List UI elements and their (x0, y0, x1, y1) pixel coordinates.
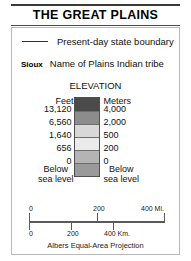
legend-entry-state-boundary: Present-day state boundary (12, 36, 179, 47)
state-boundary-line-icon (22, 41, 48, 42)
elevation-band-500-2000-m (75, 124, 99, 137)
elevation-feet-1640: 1,640 (49, 130, 72, 140)
tribe-example-label: Sioux (21, 60, 43, 69)
scale-tick-km-200 (71, 221, 72, 230)
elevation-scale: Feet Meters 13,1204,0006,5602,0001,64050… (12, 96, 179, 196)
state-boundary-label: Present-day state boundary (57, 36, 174, 47)
legend-entry-tribe-name: Sioux Name of Plains Indian tribe (12, 58, 179, 69)
elevation-band-200-500-m (75, 137, 99, 150)
elevation-band-above-4000-m (75, 98, 99, 111)
elevation-band-2000-4000-m (75, 111, 99, 124)
elevation-feet-656: 656 (56, 143, 71, 153)
elevation-meters-4000: 4,000 (104, 104, 127, 114)
elevation-band-below-sea-level (75, 163, 99, 176)
scale-tick-km-400 (113, 221, 114, 230)
title-rule-bottom (11, 25, 180, 26)
elevation-meters-2000: 2,000 (104, 117, 127, 127)
elevation-color-bar (74, 97, 100, 177)
elevation-below-sea-level-meters: Belowsea level (104, 164, 140, 184)
scale-label-miles-200: 200 (93, 205, 105, 212)
scale-label-miles-0: 0 (29, 205, 33, 212)
scale-label-km-200: 200 (67, 230, 79, 237)
legend-title-block: THE GREAT PLAINS (11, 4, 180, 26)
distance-scale-bar: 0 200 400 Mi. 0 200 400 Km. (29, 208, 165, 240)
elevation-below-sea-level-feet: Belowsea level (38, 164, 74, 184)
scale-tick-miles-400 (164, 213, 165, 223)
map-legend-panel: THE GREAT PLAINS Present-day state bound… (0, 0, 191, 261)
elevation-feet-6560: 6,560 (49, 117, 72, 127)
scale-label-km-400: 400 Km. (104, 230, 130, 237)
page-title: THE GREAT PLAINS (11, 6, 180, 25)
elevation-meters-500: 500 (104, 130, 119, 140)
scale-label-km-0: 0 (29, 230, 33, 237)
legend-frame: Present-day state boundary Sioux Name of… (11, 27, 180, 255)
elevation-meters-200: 200 (104, 143, 119, 153)
tribe-description-label: Name of Plains Indian tribe (50, 58, 164, 69)
scale-tick-miles-200 (97, 213, 98, 223)
elevation-feet-13120: 13,120 (44, 104, 72, 114)
scale-label-miles-400: 400 Mi. (141, 205, 164, 212)
elevation-band-0-200-m (75, 150, 99, 163)
elevation-heading: ELEVATION (12, 80, 179, 91)
scale-tick-km-0 (29, 221, 30, 230)
projection-note: Albers Equal-Area Projection (12, 241, 179, 250)
